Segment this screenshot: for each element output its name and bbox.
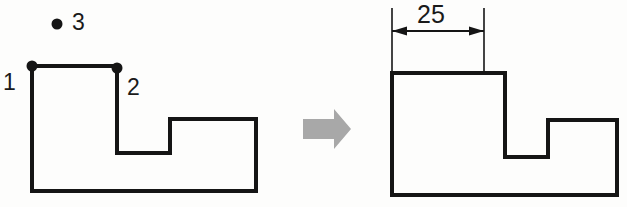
pick-point-3-label: 3	[72, 11, 85, 34]
pick-point-1-label: 1	[3, 71, 16, 94]
after-shape-outline[interactable]	[392, 73, 617, 195]
pick-point-1-marker[interactable]	[27, 61, 38, 72]
pick-point-3-marker[interactable]	[52, 19, 63, 30]
right-arrow-icon	[303, 109, 351, 149]
pick-point-2-label: 2	[127, 76, 140, 99]
diagram-canvas: 1 2 3 25	[0, 0, 627, 207]
before-shape-outline[interactable]	[32, 66, 256, 191]
diagram-svg	[0, 0, 627, 207]
dimension-arrowhead-left	[392, 27, 407, 36]
pick-point-2-marker[interactable]	[112, 63, 123, 74]
dimension-value-label: 25	[417, 2, 445, 27]
dimension-arrowhead-right	[469, 27, 484, 36]
